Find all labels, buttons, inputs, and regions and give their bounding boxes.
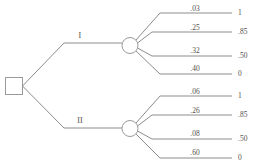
outcome-label-upper-4: 0 <box>238 69 242 78</box>
alternative-label-II: II <box>72 116 88 125</box>
outcome-label-upper-3: .50 <box>238 51 248 60</box>
probability-label-upper-1: .03 <box>180 4 210 13</box>
probability-label-upper-2: .25 <box>180 23 210 32</box>
edge-alternative-I[interactable] <box>23 43 123 86</box>
chance-node-lower[interactable] <box>122 121 138 137</box>
decision-tree-figure: I II .03 .25 .32 .40 1 .85 .50 0 .06 .26… <box>0 0 257 166</box>
outcome-label-lower-1: 1 <box>238 91 242 100</box>
chance-node-upper[interactable] <box>122 38 138 54</box>
tree-canvas <box>0 0 257 166</box>
probability-label-upper-4: .40 <box>180 64 210 73</box>
outcome-label-upper-2: .85 <box>238 27 248 36</box>
alternative-label-I: I <box>72 31 88 40</box>
edge-lower-outcome-2[interactable] <box>138 115 233 126</box>
outcome-label-upper-1: 1 <box>238 8 242 17</box>
edge-upper-outcome-2[interactable] <box>138 32 233 43</box>
figure-caption <box>0 156 257 166</box>
decision-node-square[interactable] <box>6 78 23 95</box>
outcome-label-lower-2: .85 <box>238 110 248 119</box>
probability-label-upper-3: .32 <box>180 46 210 55</box>
outcome-label-lower-3: .50 <box>238 134 248 143</box>
probability-label-lower-1: .06 <box>180 87 210 96</box>
probability-label-lower-2: .26 <box>180 106 210 115</box>
probability-label-lower-3: .08 <box>180 129 210 138</box>
